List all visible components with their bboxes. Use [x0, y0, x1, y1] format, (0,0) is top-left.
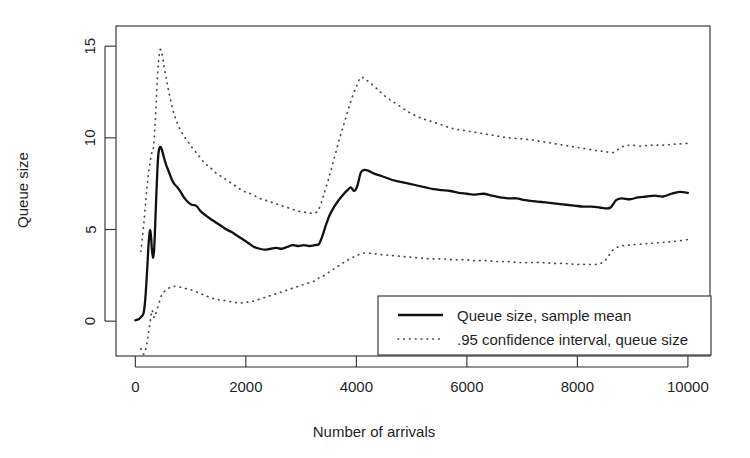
x-tick-label: 2000 — [229, 378, 262, 395]
legend-label-mean: Queue size, sample mean — [457, 307, 631, 324]
x-tick-label: 6000 — [450, 378, 483, 395]
x-tick-label: 0 — [131, 378, 139, 395]
chart-figure: 051015 0200040006000800010000 Number of … — [0, 0, 750, 458]
queue-size-line-chart: 051015 0200040006000800010000 Number of … — [0, 0, 750, 458]
y-tick-label: 10 — [82, 129, 99, 146]
y-axis-title: Queue size — [14, 152, 31, 228]
y-tick-label: 15 — [82, 38, 99, 55]
x-axis-title: Number of arrivals — [313, 423, 436, 440]
y-tick-label: 0 — [82, 317, 99, 325]
x-tick-label: 4000 — [340, 378, 373, 395]
x-tick-label: 10000 — [667, 378, 709, 395]
x-tick-label: 8000 — [561, 378, 594, 395]
legend-label-confidence-interval: .95 confidence interval, queue size — [457, 331, 688, 348]
y-tick-label: 5 — [82, 225, 99, 233]
chart-legend[interactable]: Queue size, sample mean .95 confidence i… — [378, 296, 711, 355]
